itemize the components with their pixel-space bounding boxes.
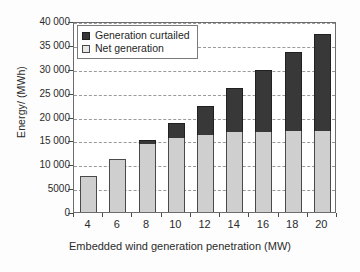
x-tick-mark — [248, 213, 249, 217]
x-tick-mark — [307, 213, 308, 217]
y-tick-label: 5000 — [24, 184, 70, 194]
bar-segment-net-generation — [80, 176, 97, 212]
y-tick-label: 15 000 — [24, 136, 70, 146]
y-axis-tick-labels: 0500010 00015 00020 00025 00030 00035 00… — [24, 16, 70, 214]
y-tick-mark — [68, 46, 73, 47]
x-tick-label: 8 — [143, 219, 149, 230]
bar-stack — [109, 159, 126, 212]
y-tick-label: 20 000 — [24, 113, 70, 123]
y-tick-label: 40 000 — [24, 17, 70, 27]
y-tick-mark — [68, 141, 73, 142]
x-tick-mark — [73, 213, 74, 217]
x-axis-title: Embedded wind generation penetration (MW… — [0, 240, 360, 252]
bar-stack — [80, 176, 97, 212]
x-tick-label: 16 — [257, 219, 269, 230]
x-tick-mark — [278, 213, 279, 217]
y-tick-mark — [68, 165, 73, 166]
bar-segment-generation-curtailed — [314, 34, 331, 130]
y-tick-label: 35 000 — [24, 41, 70, 51]
bar-stack — [314, 34, 331, 212]
bar-segment-generation-curtailed — [255, 70, 272, 132]
x-tick-mark — [219, 213, 220, 217]
x-tick-label: 20 — [315, 219, 327, 230]
legend-label: Generation curtailed — [95, 30, 190, 41]
bar-stack — [226, 88, 243, 212]
bar-segment-net-generation — [168, 138, 185, 212]
y-tick-mark — [68, 70, 73, 71]
y-tick-label: 30 000 — [24, 65, 70, 75]
bar-segment-net-generation — [109, 159, 126, 212]
x-tick-label: 18 — [286, 219, 298, 230]
bar-stack — [285, 52, 302, 212]
x-tick-mark — [336, 213, 337, 217]
x-tick-label: 14 — [228, 219, 240, 230]
bar-segment-net-generation — [139, 144, 156, 212]
legend-swatch-icon — [82, 45, 90, 53]
bar-segment-net-generation — [314, 131, 331, 212]
chart-legend: Generation curtailedNet generation — [77, 25, 198, 59]
x-tick-mark — [190, 213, 191, 217]
x-tick-label: 6 — [114, 219, 120, 230]
y-tick-mark — [68, 22, 73, 23]
gridline — [74, 23, 335, 24]
bar-segment-generation-curtailed — [197, 106, 214, 135]
bar-segment-net-generation — [197, 135, 214, 212]
bar-stack — [168, 123, 185, 212]
bar-stack — [255, 70, 272, 212]
y-tick-mark — [68, 94, 73, 95]
bar-segment-net-generation — [226, 132, 243, 212]
x-tick-label: 12 — [198, 219, 210, 230]
x-tick-mark — [102, 213, 103, 217]
bar-segment-generation-curtailed — [168, 123, 185, 139]
legend-label: Net generation — [95, 43, 164, 54]
chart-figure: Energy/ (MWh) 0500010 00015 00020 00025 … — [0, 0, 360, 272]
bar-stack — [139, 140, 156, 212]
y-tick-label: 25 000 — [24, 89, 70, 99]
x-tick-label: 10 — [169, 219, 181, 230]
bar-segment-generation-curtailed — [226, 88, 243, 132]
y-tick-label: 0 — [24, 208, 70, 218]
bar-stack — [197, 106, 214, 212]
x-tick-mark — [161, 213, 162, 217]
bar-segment-net-generation — [255, 132, 272, 212]
bar-segment-net-generation — [285, 131, 302, 212]
x-tick-label: 4 — [85, 219, 91, 230]
legend-item: Net generation — [82, 42, 190, 55]
y-tick-label: 10 000 — [24, 160, 70, 170]
x-tick-mark — [131, 213, 132, 217]
y-tick-mark — [68, 118, 73, 119]
legend-swatch-icon — [82, 32, 90, 40]
bar-segment-generation-curtailed — [285, 52, 302, 131]
legend-item: Generation curtailed — [82, 29, 190, 42]
y-tick-mark — [68, 189, 73, 190]
